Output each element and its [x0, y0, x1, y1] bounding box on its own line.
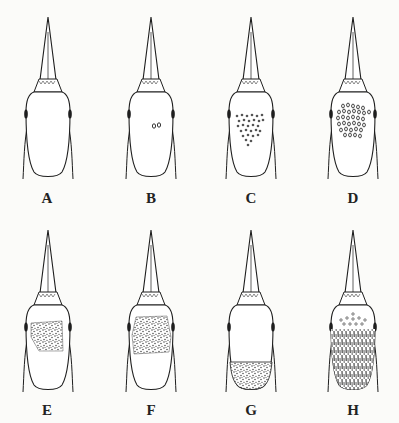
figure-canvas — [0, 0, 399, 423]
patch-h — [331, 329, 375, 390]
patch-f — [132, 316, 171, 354]
panel-label-f: F — [131, 402, 171, 419]
patch-g — [230, 362, 272, 390]
head-c — [226, 17, 276, 179]
panel-label-c: C — [231, 190, 271, 207]
head-f — [126, 230, 176, 392]
panel-label-d: D — [333, 190, 373, 207]
panel-label-g: G — [231, 402, 271, 419]
panel-label-h: H — [333, 402, 373, 419]
head-b — [126, 17, 176, 179]
panel-label-b: B — [131, 190, 171, 207]
head-d — [328, 17, 378, 179]
head-e — [23, 230, 73, 392]
head-h — [328, 230, 378, 392]
panel-label-e: E — [27, 402, 67, 419]
panel-label-a: A — [27, 190, 67, 207]
head-a — [23, 17, 73, 179]
head-g — [226, 230, 276, 392]
